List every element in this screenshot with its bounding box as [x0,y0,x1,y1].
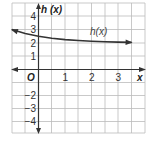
y-tick-neg3: −3 [25,103,37,114]
curve-h [11,29,133,45]
curve-label: h(x) [90,26,107,37]
x-tick-1: 1 [63,72,69,83]
y-tick-neg4: −4 [25,116,37,127]
y-tick-4: 4 [30,11,36,22]
origin-label: O [27,72,35,83]
y-axis-label: h (x) [41,4,63,15]
function-graph: h (x) x O 1 2 3 4 3 2 1 −2 −3 −4 h(x) [0,0,150,142]
x-axis-label: x [136,72,143,83]
y-axis [36,3,41,134]
y-tick-1: 1 [30,51,36,62]
y-tick-3: 3 [30,24,36,35]
y-tick-neg2: −2 [25,90,37,101]
x-tick-3: 3 [116,72,122,83]
x-tick-2: 2 [89,72,95,83]
y-tick-2: 2 [30,38,36,49]
x-tick-labels: 1 2 3 [63,72,122,83]
